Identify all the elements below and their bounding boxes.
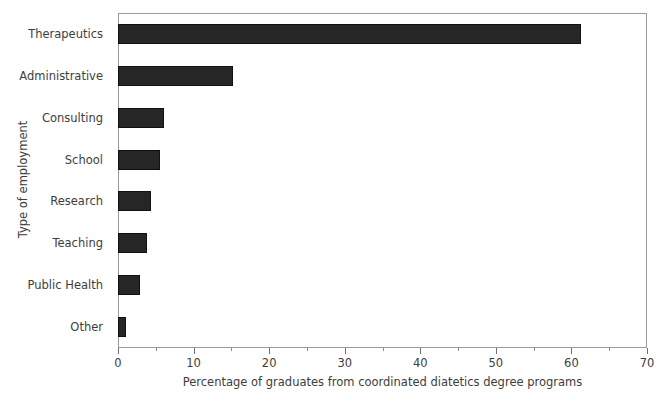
x-axis-major-tick bbox=[118, 348, 119, 354]
x-axis-minor-tick bbox=[609, 348, 610, 351]
x-axis-major-tick bbox=[647, 348, 648, 354]
y-axis-tick-label: Teaching bbox=[52, 236, 103, 250]
y-axis-tick-label: Research bbox=[50, 194, 103, 208]
y-axis-tick-label: Other bbox=[70, 320, 103, 334]
x-axis-major-tick bbox=[571, 348, 572, 354]
x-axis-tick-label: 70 bbox=[627, 356, 663, 370]
x-axis-minor-tick bbox=[156, 348, 157, 351]
x-axis-minor-tick bbox=[231, 348, 232, 351]
x-axis-tick-label: 0 bbox=[98, 356, 138, 370]
x-axis-minor-tick bbox=[458, 348, 459, 351]
x-axis-tick-label: 40 bbox=[400, 356, 440, 370]
x-axis-tick-label: 20 bbox=[249, 356, 289, 370]
bar bbox=[118, 150, 160, 170]
x-axis-tick-label: 30 bbox=[325, 356, 365, 370]
bar bbox=[118, 275, 140, 295]
x-axis-major-tick bbox=[194, 348, 195, 354]
x-axis-major-tick bbox=[496, 348, 497, 354]
x-axis-major-tick bbox=[269, 348, 270, 354]
bar bbox=[118, 66, 233, 86]
bars-layer bbox=[118, 13, 647, 348]
x-axis-major-tick bbox=[345, 348, 346, 354]
y-axis-tick-label: School bbox=[65, 153, 103, 167]
bar bbox=[118, 24, 581, 44]
x-axis-major-tick bbox=[420, 348, 421, 354]
x-axis-tick-label: 10 bbox=[174, 356, 214, 370]
x-axis-minor-tick bbox=[534, 348, 535, 351]
x-axis-tick-label: 50 bbox=[476, 356, 516, 370]
bar bbox=[118, 191, 151, 211]
x-axis-title: Percentage of graduates from coordinated… bbox=[118, 375, 647, 389]
y-axis-tick-label: Public Health bbox=[28, 278, 103, 292]
x-axis-ticks: 010203040506070 bbox=[118, 348, 647, 378]
bar-chart: Type of employment TherapeuticsAdministr… bbox=[0, 0, 663, 403]
bar bbox=[118, 108, 164, 128]
y-axis-tick-label: Administrative bbox=[19, 69, 103, 83]
x-axis-tick-label: 60 bbox=[551, 356, 591, 370]
y-axis-tick-label: Consulting bbox=[42, 111, 103, 125]
x-axis-minor-tick bbox=[383, 348, 384, 351]
bar bbox=[118, 233, 147, 253]
y-axis-tick-label: Therapeutics bbox=[28, 27, 103, 41]
x-axis-minor-tick bbox=[307, 348, 308, 351]
bar bbox=[118, 317, 126, 337]
y-axis-tick-labels: TherapeuticsAdministrativeConsultingScho… bbox=[0, 13, 110, 348]
